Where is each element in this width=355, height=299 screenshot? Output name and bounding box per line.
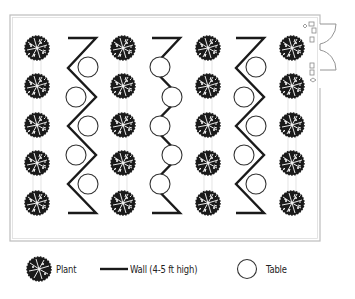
plant-icon [25, 151, 49, 175]
table-icon [66, 87, 86, 107]
plant-column-4 [280, 36, 304, 215]
plant-icon [196, 191, 220, 215]
legend-wall-label: Wall (4-5 ft high) [130, 263, 197, 276]
double-doors[interactable] [318, 24, 336, 88]
plant-icon [25, 74, 49, 98]
plant-icon [196, 151, 220, 175]
table-icon [150, 174, 170, 194]
legend-plant: Plant [24, 254, 80, 284]
table-icon [78, 174, 98, 194]
table-icon [66, 145, 86, 165]
legend-table-label: Table [266, 263, 287, 276]
plant-icon [196, 36, 220, 60]
plant-icon [280, 191, 304, 215]
table-icon [236, 258, 258, 280]
table-icon [234, 87, 254, 107]
plant-icon [280, 36, 304, 60]
door-fixtures [303, 22, 316, 82]
plant-icon [111, 74, 135, 98]
plant-icon [280, 151, 304, 175]
legend-wall: Wall (4-5 ft high) [100, 254, 209, 284]
plant-icon [196, 74, 220, 98]
legend-plant-label: Plant [56, 263, 76, 276]
table-icon [246, 174, 266, 194]
plant-icon [25, 36, 49, 60]
table-icon [234, 145, 254, 165]
plant-column-3 [196, 36, 220, 215]
plant-icon [280, 113, 304, 137]
table-icon [150, 116, 170, 136]
floor-plan [0, 0, 355, 254]
plant-column-2 [111, 36, 135, 215]
table-icon [78, 116, 98, 136]
table-icon [246, 57, 266, 77]
plant-icon [111, 151, 135, 175]
legend: Plant Wall (4-5 ft high) Table [0, 254, 355, 284]
plant-icon [111, 113, 135, 137]
legend-table: Table [236, 254, 290, 284]
plant-icon [25, 113, 49, 137]
table-icon [78, 57, 98, 77]
plant-icon [111, 36, 135, 60]
plant-icon [25, 191, 49, 215]
plant-icon [24, 254, 54, 284]
plant-icon [196, 113, 220, 137]
table-icon [246, 116, 266, 136]
wall-line-icon [100, 266, 128, 272]
plant-icon [280, 74, 304, 98]
table-icon [150, 57, 170, 77]
table-icon [162, 87, 182, 107]
plant-column-1 [25, 36, 49, 215]
table-icon [162, 145, 182, 165]
plant-icon [111, 191, 135, 215]
